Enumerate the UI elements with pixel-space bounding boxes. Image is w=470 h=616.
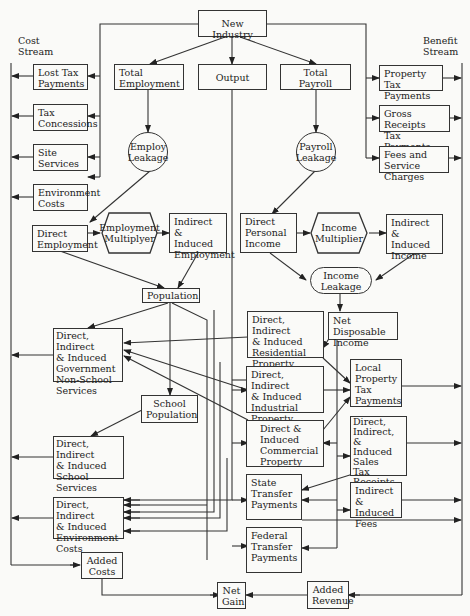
node-state-transfer-payments: State Transfer Payments: [246, 474, 302, 520]
node-site-services: Site Services: [33, 144, 88, 171]
node-indirect-employment: Indirect & Induced Employment: [169, 213, 227, 253]
benefit-stream-label: Benefit Stream: [423, 35, 458, 57]
node-payroll-leakage: Payroll Leakage: [296, 132, 336, 172]
node-net-disposable-income: Net Disposable Income: [328, 312, 398, 340]
node-employ-leakage: Employ Leakage: [128, 132, 168, 172]
node-school-population: School Population: [141, 395, 198, 423]
node-net-gain: Net Gain: [217, 582, 246, 609]
node-fees-service-charges: Fees and Service Charges: [379, 146, 449, 173]
node-lost-tax-payments: Lost Tax Payments: [33, 64, 88, 90]
node-indirect-income: Indirect & Induced Income: [386, 214, 443, 254]
cost-stream-label: Cost Stream: [18, 35, 53, 57]
node-employment-multiplyer: Employment Multiplyer: [102, 213, 157, 253]
node-gross-receipts: Gross Receipts Tax Payments: [379, 105, 450, 132]
node-population: Population: [142, 288, 200, 303]
node-output: Output: [198, 64, 267, 90]
node-environment-costs: Environment Costs: [33, 184, 88, 211]
node-total-payroll: Total Payroll: [280, 64, 351, 90]
node-indirect-induced-fees: Indirect & Induced Fees: [350, 482, 402, 518]
node-direct-personal-income: Direct Personal Income: [240, 213, 297, 253]
node-sales-tax-receipts: Direct, Indirect, & Induced Sales Tax Re…: [350, 416, 407, 476]
node-environment-costs-induced: Direct, Indirect & Induced Environment C…: [53, 497, 124, 539]
node-total-employment: Total Employment: [114, 64, 184, 90]
node-federal-transfer-payments: Federal Transfer Payments: [246, 527, 302, 573]
node-property-tax-payments: Property Tax Payments: [379, 65, 443, 91]
node-commercial-property: Direct & Induced Commercial Property: [246, 420, 324, 467]
node-industrial-property: Direct, Indirect & Induced Industrial Pr…: [246, 366, 324, 413]
node-added-revenue: Added Revenue: [307, 581, 349, 609]
node-added-costs: Added Costs: [81, 552, 123, 579]
node-local-property-tax: Local Property Tax Payments: [350, 359, 402, 407]
node-new-industry: New Industry: [198, 10, 267, 37]
node-school-services: Direct, Indirect & Induced School Servic…: [53, 436, 124, 479]
node-income-multiplier: Income Multiplier: [311, 213, 367, 253]
node-tax-concessions: Tax Concessions: [33, 104, 88, 131]
node-residential-property: Direct, Indirect & Induced Residential P…: [247, 311, 324, 358]
node-direct-employment: Direct Employment: [32, 225, 88, 252]
node-income-leakage: Income Leakage: [310, 267, 372, 294]
node-gov-non-school-services: Direct, Indirect & Induced Government No…: [53, 328, 123, 382]
